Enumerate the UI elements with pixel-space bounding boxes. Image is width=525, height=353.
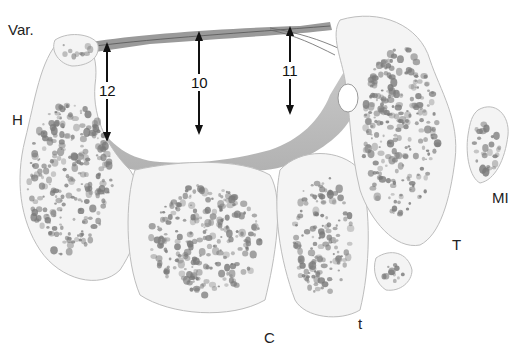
trabecular-pore bbox=[218, 205, 220, 208]
trabecular-pore bbox=[313, 214, 316, 216]
trabecular-pore bbox=[97, 189, 101, 193]
trabecular-pore bbox=[71, 135, 75, 140]
trabecular-pore bbox=[210, 213, 217, 220]
trabecular-pore bbox=[316, 200, 318, 202]
trabecular-pore bbox=[397, 200, 401, 204]
trabecular-pore bbox=[80, 112, 82, 114]
trabecular-pore bbox=[150, 248, 153, 251]
trabecular-pore bbox=[203, 264, 209, 270]
trabecular-pore bbox=[493, 132, 500, 140]
trabecular-pore bbox=[390, 209, 394, 214]
trabecular-pore bbox=[397, 276, 400, 279]
trabecular-pore bbox=[380, 107, 387, 115]
trabecular-pore bbox=[418, 109, 423, 115]
trabecular-pore bbox=[370, 134, 372, 136]
trabecular-pore bbox=[208, 192, 213, 195]
trabecular-pore bbox=[203, 226, 205, 228]
trabecular-pore bbox=[398, 111, 404, 115]
trabecular-pore bbox=[176, 207, 181, 212]
trabecular-pore bbox=[83, 154, 89, 161]
trabecular-pore bbox=[247, 268, 253, 275]
trabecular-pore bbox=[474, 150, 479, 154]
trabecular-pore bbox=[417, 86, 419, 88]
trabecular-pore bbox=[86, 125, 91, 130]
trabecular-pore bbox=[374, 132, 379, 138]
trabecular-pore bbox=[492, 160, 498, 168]
trabecular-pore bbox=[26, 178, 32, 185]
trabecular-pore bbox=[63, 44, 65, 46]
trabecular-pore bbox=[82, 106, 87, 112]
trabecular-pore bbox=[391, 179, 396, 183]
trabecular-pore bbox=[58, 190, 62, 193]
trabecular-pore bbox=[157, 243, 164, 249]
trabecular-pore bbox=[397, 55, 404, 63]
trabecular-pore bbox=[74, 105, 76, 107]
trabecular-pore bbox=[343, 262, 347, 268]
trabecular-pore bbox=[240, 232, 244, 236]
trabecular-pore bbox=[174, 243, 181, 250]
trabecular-pore bbox=[343, 217, 347, 222]
trabecular-pore bbox=[154, 237, 161, 244]
trabecular-pore bbox=[379, 176, 386, 183]
trabecular-pore bbox=[391, 193, 395, 196]
trabecular-pore bbox=[394, 266, 399, 271]
trabecular-pore bbox=[318, 228, 325, 235]
measurement-10: 10 bbox=[191, 74, 208, 91]
trabecular-pore bbox=[80, 52, 84, 57]
trabecular-pore bbox=[228, 191, 231, 194]
trabecular-pore bbox=[218, 193, 221, 197]
trabecular-pore bbox=[75, 51, 80, 57]
trabecular-pore bbox=[409, 84, 415, 89]
trabecular-pore bbox=[325, 245, 331, 251]
trabecular-pore bbox=[347, 242, 353, 246]
trabecular-pore bbox=[30, 162, 33, 164]
trabecular-pore bbox=[420, 73, 427, 79]
trabecular-pore bbox=[57, 147, 64, 156]
trabecular-pore bbox=[413, 59, 420, 66]
trabecular-pore bbox=[209, 266, 213, 269]
trabecular-pore bbox=[312, 236, 315, 239]
trabecular-pore bbox=[88, 186, 93, 192]
trabecular-pore bbox=[408, 145, 411, 147]
trabecular-pore bbox=[185, 189, 189, 192]
trabecular-pore bbox=[32, 142, 36, 145]
trabecular-pore bbox=[148, 234, 154, 241]
trabecular-pore bbox=[394, 114, 400, 120]
trabecular-pore bbox=[304, 201, 309, 206]
trabecular-pore bbox=[309, 265, 316, 272]
trabecular-pore bbox=[76, 188, 81, 192]
trabecular-pore bbox=[413, 153, 419, 160]
trabecular-pore bbox=[422, 146, 425, 150]
trabecular-pore bbox=[306, 275, 310, 278]
trabecular-pore bbox=[165, 275, 169, 279]
trabecular-pore bbox=[396, 68, 403, 76]
trabecular-pore bbox=[321, 200, 327, 205]
trabecular-pore bbox=[250, 251, 257, 259]
trabecular-pore bbox=[84, 216, 89, 220]
trabecular-pore bbox=[252, 214, 257, 218]
trabecular-pore bbox=[111, 184, 114, 187]
trabecular-pore bbox=[338, 220, 341, 222]
trabecular-pore bbox=[167, 266, 170, 269]
trabecular-pore bbox=[199, 248, 206, 256]
trabecular-pore bbox=[416, 174, 421, 180]
trabecular-pore bbox=[393, 137, 398, 142]
trabecular-pore bbox=[387, 266, 389, 268]
trabecular-pore bbox=[368, 170, 374, 177]
trabecular-pore bbox=[386, 178, 391, 183]
trabecular-pore bbox=[184, 256, 190, 261]
trabecular-pore bbox=[205, 235, 212, 241]
trabecular-pore bbox=[162, 211, 165, 213]
trabecular-pore bbox=[217, 219, 223, 226]
trabecular-pore bbox=[378, 72, 383, 78]
trabecular-pore bbox=[481, 152, 487, 156]
trabecular-pore bbox=[394, 152, 400, 159]
trabecular-pore bbox=[313, 290, 315, 293]
trabecular-pore bbox=[327, 289, 333, 294]
trabecular-pore bbox=[424, 82, 429, 86]
trabecular-pore bbox=[329, 190, 331, 192]
trabecular-pore bbox=[333, 227, 338, 231]
trabecular-pore bbox=[175, 230, 178, 233]
trabecular-pore bbox=[314, 282, 319, 286]
trabecular-pore bbox=[31, 150, 38, 157]
